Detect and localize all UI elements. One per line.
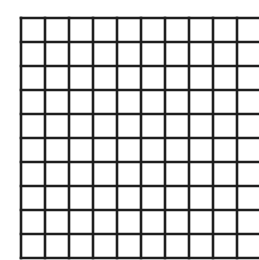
square-grid [0,0,259,260]
